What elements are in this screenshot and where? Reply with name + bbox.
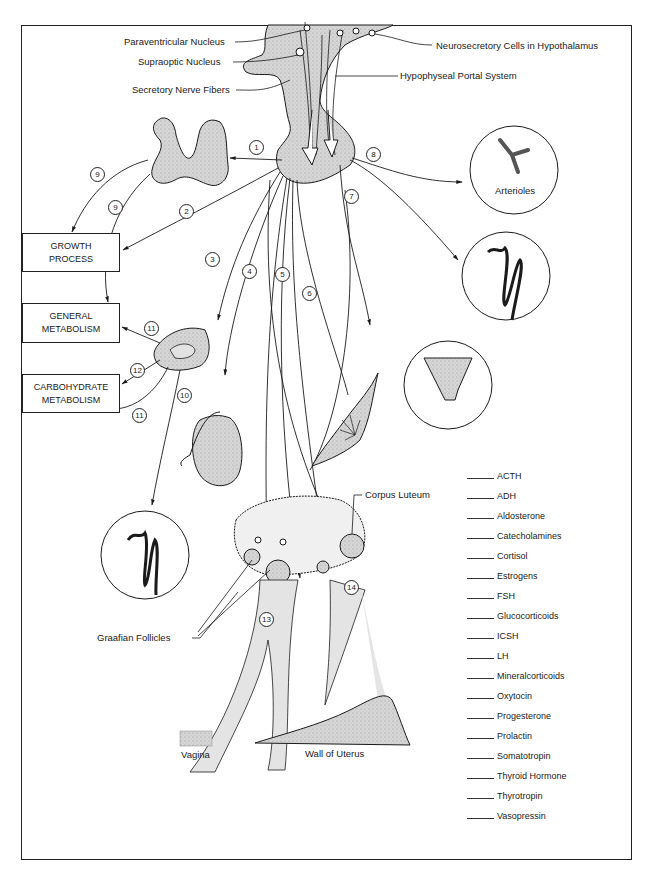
legend-item: LH <box>467 641 567 661</box>
label-secretory-nerve-fibers: Secretory Nerve Fibers <box>132 84 230 95</box>
legend-label: Mineralcorticoids <box>497 671 565 681</box>
hormone-answer-list: ACTH ADH Aldosterone Catecholamines Cort… <box>467 461 567 821</box>
answer-blank[interactable] <box>467 658 494 659</box>
number-1: 1 <box>249 140 264 155</box>
number-7: 7 <box>344 189 359 204</box>
legend-label: ADH <box>497 491 516 501</box>
legend-item: Mineralcorticoids <box>467 661 567 681</box>
thyroid-gland <box>152 118 229 186</box>
number-2: 2 <box>179 204 194 219</box>
box-line: CARBOHYDRATE <box>34 381 108 394</box>
legend-item: Catecholamines <box>467 521 567 541</box>
label-vagina: Vagina <box>181 749 210 760</box>
legend-item: FSH <box>467 581 567 601</box>
legend-item: ADH <box>467 481 567 501</box>
arterioles-inset <box>470 126 558 214</box>
number-5: 5 <box>275 267 290 282</box>
number-8: 8 <box>366 147 381 162</box>
legend-label: ACTH <box>497 471 522 481</box>
label-graafian-follicles: Graafian Follicles <box>97 632 170 643</box>
legend-label: Progesterone <box>497 711 551 721</box>
number-4: 4 <box>242 264 257 279</box>
answer-blank[interactable] <box>467 578 494 579</box>
legend-label: Glucocorticoids <box>497 611 559 621</box>
carbohydrate-metabolism-box: CARBOHYDRATEMETABOLISM <box>22 374 120 413</box>
legend-item: ACTH <box>467 461 567 481</box>
growth-process-box: GROWTHPROCESS <box>22 233 120 272</box>
legend-item: Vasopressin <box>467 801 567 821</box>
legend-label: ICSH <box>497 631 519 641</box>
legend-label: Thyroid Hormone <box>497 771 567 781</box>
answer-blank[interactable] <box>467 718 494 719</box>
legend-item: ICSH <box>467 621 567 641</box>
answer-blank[interactable] <box>467 818 494 819</box>
answer-blank[interactable] <box>467 678 494 679</box>
legend-label: FSH <box>497 591 515 601</box>
legend-label: Cortisol <box>497 551 528 561</box>
answer-blank[interactable] <box>467 598 494 599</box>
number-10: 10 <box>177 388 192 403</box>
label-neurosecretory-cells: Neurosecretory Cells in Hypothalamus <box>436 40 598 51</box>
testis <box>193 416 242 486</box>
label-arterioles: Arterioles <box>495 185 535 196</box>
legend-item: Aldosterone <box>467 501 567 521</box>
legend-item: Prolactin <box>467 721 567 741</box>
answer-blank[interactable] <box>467 798 494 799</box>
number-9a: 9 <box>90 167 105 182</box>
answer-blank[interactable] <box>467 558 494 559</box>
answer-blank[interactable] <box>467 518 494 519</box>
legend-item: Thyrotropin <box>467 781 567 801</box>
legend-item: Oxytocin <box>467 681 567 701</box>
answer-blank[interactable] <box>467 758 494 759</box>
box-line: METABOLISM <box>34 394 108 407</box>
number-3: 3 <box>205 252 220 267</box>
answer-blank[interactable] <box>467 618 494 619</box>
legend-item: Estrogens <box>467 561 567 581</box>
answer-blank[interactable] <box>467 498 494 499</box>
box-line: GENERAL <box>42 310 100 323</box>
legend-label: Prolactin <box>497 731 532 741</box>
legend-item: Thyroid Hormone <box>467 761 567 781</box>
legend-label: Oxytocin <box>497 691 532 701</box>
legend-item: Glucocorticoids <box>467 601 567 621</box>
legend-label: Somatotropin <box>497 751 551 761</box>
label-corpus-luteum: Corpus Luteum <box>365 489 430 500</box>
general-metabolism-box: GENERALMETABOLISM <box>22 303 120 343</box>
uterine-band-14 <box>325 580 365 705</box>
answer-blank[interactable] <box>467 698 494 699</box>
legend-item: Cortisol <box>467 541 567 561</box>
number-13: 13 <box>259 612 274 627</box>
number-14: 14 <box>344 580 359 595</box>
number-11a: 11 <box>144 321 159 336</box>
legend-label: Vasopressin <box>497 811 546 821</box>
box-line: METABOLISM <box>42 323 100 336</box>
number-9b: 9 <box>108 200 123 215</box>
label-paraventricular-nucleus: Paraventricular Nucleus <box>124 36 225 47</box>
label-hypophyseal-portal-system: Hypophyseal Portal System <box>400 70 517 81</box>
mammary-gland <box>312 373 378 466</box>
answer-blank[interactable] <box>467 778 494 779</box>
box-line: GROWTH <box>49 240 93 253</box>
answer-blank[interactable] <box>467 478 494 479</box>
number-6: 6 <box>302 286 317 301</box>
legend-label: Estrogens <box>497 571 538 581</box>
number-12: 12 <box>130 363 145 378</box>
box-line: PROCESS <box>49 253 93 266</box>
answer-blank[interactable] <box>467 538 494 539</box>
legend-label: Catecholamines <box>497 531 562 541</box>
legend-item: Somatotropin <box>467 741 567 761</box>
answer-blank[interactable] <box>467 638 494 639</box>
legend-label: Aldosterone <box>497 511 545 521</box>
number-11b: 11 <box>132 408 147 423</box>
legend-item: Progesterone <box>467 701 567 721</box>
label-supraoptic-nucleus: Supraoptic Nucleus <box>138 56 220 67</box>
legend-label: Thyrotropin <box>497 791 543 801</box>
answer-blank[interactable] <box>467 738 494 739</box>
legend-label: LH <box>497 651 509 661</box>
vagina-tissue <box>180 731 212 746</box>
label-wall-of-uterus: Wall of Uterus <box>305 748 364 759</box>
